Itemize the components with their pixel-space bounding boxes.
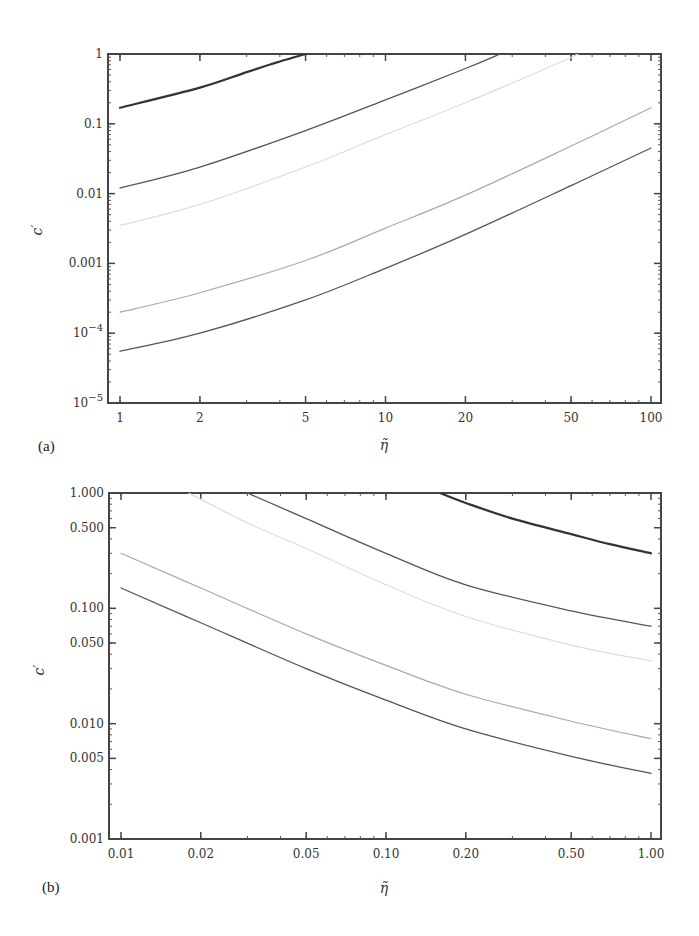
panel-a: 125102050100 10.10.010.00110−410−5 η̃ c′… xyxy=(29,18,662,455)
y-tick-labels: 10.10.010.00110−410−5 xyxy=(69,47,103,410)
x-tick-label: 0.10 xyxy=(373,847,400,861)
x-tick-label: 5 xyxy=(302,411,310,425)
x-tick-label: 0.20 xyxy=(452,847,479,861)
y-tick-labels: 1.0000.5000.1000.0500.0100.0050.001 xyxy=(70,486,104,846)
series-curve-1 xyxy=(120,54,306,108)
curves xyxy=(121,493,651,773)
y-tick-label: 0.100 xyxy=(70,601,104,615)
series-curve-4 xyxy=(121,553,651,738)
y-tick-label: 1 xyxy=(95,47,103,61)
x-axis-label: η̃ xyxy=(380,880,389,896)
curves xyxy=(120,18,651,352)
series-curve-5 xyxy=(120,148,651,351)
panel-label: (b) xyxy=(42,879,60,896)
y-tick-label: 0.1 xyxy=(84,117,103,131)
y-tick-label: 0.005 xyxy=(70,751,104,765)
x-tick-labels: 0.010.020.050.100.200.501.00 xyxy=(108,847,665,861)
x-tick-label: 0.50 xyxy=(558,847,585,861)
series-curve-3 xyxy=(120,18,651,226)
y-axis-label: c′ xyxy=(31,664,47,676)
x-tick-label: 0.01 xyxy=(108,847,135,861)
series-curve-3 xyxy=(189,493,651,661)
tick-marks xyxy=(109,493,661,839)
y-tick-label: 10−5 xyxy=(73,392,103,410)
y-tick-label: 0.010 xyxy=(70,717,104,731)
y-tick-label: 0.001 xyxy=(70,832,104,846)
figure: 125102050100 10.10.010.00110−410−5 η̃ c′… xyxy=(0,0,699,936)
x-tick-label: 0.02 xyxy=(187,847,214,861)
x-tick-label: 0.05 xyxy=(293,847,320,861)
y-tick-label: 0.050 xyxy=(70,636,104,650)
x-tick-label: 1.00 xyxy=(638,847,665,861)
y-tick-label: 0.500 xyxy=(70,521,104,535)
panel-b: 0.010.020.050.100.200.501.00 1.0000.5000… xyxy=(31,486,664,896)
y-tick-label: 0.001 xyxy=(69,256,103,270)
series-curve-4 xyxy=(120,108,651,312)
series-curve-2 xyxy=(120,54,500,188)
series-curve-5 xyxy=(121,588,651,773)
series-curve-1 xyxy=(440,493,651,553)
panel-label: (a) xyxy=(38,438,55,455)
y-axis-label: c′ xyxy=(29,224,45,236)
y-tick-label: 0.01 xyxy=(76,187,103,201)
y-tick-label: 1.000 xyxy=(70,486,104,500)
series-curve-2 xyxy=(247,493,651,626)
x-tick-label: 20 xyxy=(458,411,473,425)
x-tick-label: 10 xyxy=(378,411,393,425)
x-tick-label: 2 xyxy=(196,411,204,425)
x-tick-label: 50 xyxy=(563,411,578,425)
y-tick-label: 10−4 xyxy=(73,322,103,340)
plot-frame xyxy=(109,493,661,839)
x-tick-label: 1 xyxy=(116,411,124,425)
x-tick-labels: 125102050100 xyxy=(116,411,662,425)
x-tick-label: 100 xyxy=(640,411,663,425)
x-axis-label: η̃ xyxy=(380,437,389,453)
